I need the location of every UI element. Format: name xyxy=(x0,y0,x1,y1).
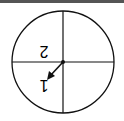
spinner-diagram: 2 1 xyxy=(0,0,124,121)
section-label-1: 1 xyxy=(39,77,48,94)
section-label-2: 2 xyxy=(39,43,48,60)
